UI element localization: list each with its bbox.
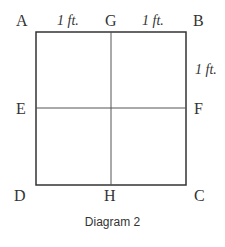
point-label-h: H xyxy=(104,188,116,204)
dimension-label-gb: 1 ft. xyxy=(142,14,164,28)
diagram-caption: Diagram 2 xyxy=(0,215,225,229)
point-label-d: D xyxy=(14,188,26,204)
dimension-label-bf: 1 ft. xyxy=(195,63,217,77)
point-label-c: C xyxy=(194,188,205,204)
dimension-label-ag: 1 ft. xyxy=(57,14,79,28)
point-label-e: E xyxy=(16,101,26,117)
point-label-g: G xyxy=(105,13,117,29)
point-label-a: A xyxy=(16,13,28,29)
point-label-b: B xyxy=(193,13,204,29)
square-diagram xyxy=(0,0,225,247)
point-label-f: F xyxy=(194,101,203,117)
